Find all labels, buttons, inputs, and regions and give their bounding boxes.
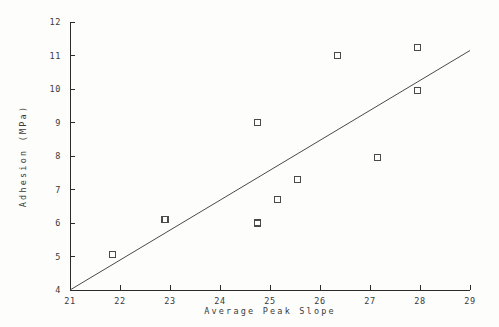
x-tick-label: 21: [64, 296, 75, 306]
x-axis-title: Average Peak Slope: [204, 306, 336, 316]
x-axis-ticks: [70, 285, 470, 290]
y-tick-label: 7: [55, 185, 61, 195]
data-point: [255, 120, 261, 126]
x-tick-label: 26: [314, 296, 325, 306]
data-point: [295, 176, 301, 182]
data-point: [162, 217, 168, 223]
y-axis-title: Adhesion (MPa): [18, 105, 28, 207]
x-tick-label: 29: [464, 296, 475, 306]
y-tick-label: 12: [50, 17, 61, 27]
data-point: [255, 220, 261, 226]
regression-line: [70, 50, 470, 290]
data-point: [335, 53, 341, 59]
x-tick-label: 28: [414, 296, 425, 306]
x-tick-label: 23: [164, 296, 175, 306]
y-tick-label: 9: [55, 118, 61, 128]
data-point: [415, 44, 421, 50]
y-tick-label: 5: [55, 252, 61, 262]
x-tick-label: 27: [364, 296, 375, 306]
y-tick-label: 6: [55, 218, 61, 228]
x-tick-label: 24: [214, 296, 225, 306]
scatter-plot-svg: 212223242526272829 456789101112 Average …: [0, 0, 499, 327]
data-point: [275, 197, 281, 203]
y-tick-label: 11: [50, 51, 61, 61]
data-point: [415, 88, 421, 94]
data-point: [110, 252, 116, 258]
y-tick-label: 8: [55, 151, 61, 161]
x-tick-label: 25: [264, 296, 275, 306]
y-axis-ticks: [70, 22, 75, 290]
y-tick-label: 4: [55, 285, 61, 295]
x-tick-label: 22: [114, 296, 125, 306]
x-axis-tick-labels: 212223242526272829: [64, 296, 475, 306]
chart-figure: 212223242526272829 456789101112 Average …: [0, 0, 499, 327]
data-point: [375, 155, 381, 161]
data-point-markers: [110, 44, 421, 258]
y-axis-tick-labels: 456789101112: [50, 17, 61, 295]
y-tick-label: 10: [50, 84, 61, 94]
